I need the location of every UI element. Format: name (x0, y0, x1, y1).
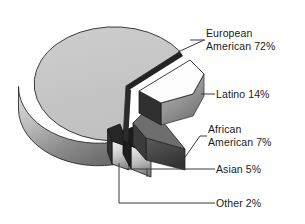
slice-label-latino: Latino 14% (216, 88, 270, 101)
slice-label-african-american: African American 7% (208, 123, 272, 148)
slice-label-other-line1: Other 2% (216, 197, 261, 210)
leader-line-european-american (178, 40, 204, 52)
slice-label-asian: Asian 5% (216, 163, 261, 176)
slice-label-european-american-line2: American 72% (206, 40, 275, 53)
slice-label-african-american-line1: African (208, 123, 272, 136)
slice-label-other: Other 2% (216, 197, 261, 210)
slice-label-latino-line1: Latino 14% (216, 88, 270, 101)
slice-label-asian-line1: Asian 5% (216, 163, 261, 176)
slice-label-european-american: European American 72% (206, 27, 275, 52)
slice-label-european-american-line1: European (206, 27, 275, 40)
slice-label-african-american-line2: American 7% (208, 136, 272, 149)
pie-chart-screenshot: European American 72% Latino 14% African… (0, 0, 305, 224)
leader-line-african-american (183, 136, 207, 160)
